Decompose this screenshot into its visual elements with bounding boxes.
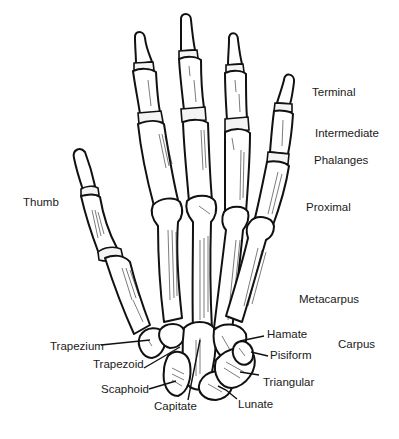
index-finger-bones xyxy=(133,32,182,322)
label-terminal: Terminal xyxy=(312,86,355,99)
label-trapezoid: Trapezoid xyxy=(93,358,144,371)
label-trapezium: Trapezium xyxy=(50,340,104,353)
label-triangular: Triangular xyxy=(263,376,314,389)
hand-skeleton-illustration xyxy=(0,0,399,439)
label-lunate: Lunate xyxy=(238,398,273,411)
label-proximal: Proximal xyxy=(306,201,351,214)
label-metacarpus: Metacarpus xyxy=(299,293,359,306)
label-intermediate: Intermediate xyxy=(315,127,379,140)
label-scaphoid: Scaphoid xyxy=(101,383,149,396)
label-carpus: Carpus xyxy=(338,338,375,351)
middle-finger-bones xyxy=(179,14,216,332)
label-pisiform: Pisiform xyxy=(270,349,312,362)
label-capitate: Capitate xyxy=(154,400,197,413)
label-thumb: Thumb xyxy=(23,196,59,209)
thumb-bones xyxy=(74,149,150,334)
label-hamate: Hamate xyxy=(267,328,307,341)
hand-bones-diagram: Terminal Intermediate Phalanges Proximal… xyxy=(0,0,399,439)
label-phalanges: Phalanges xyxy=(314,154,368,167)
